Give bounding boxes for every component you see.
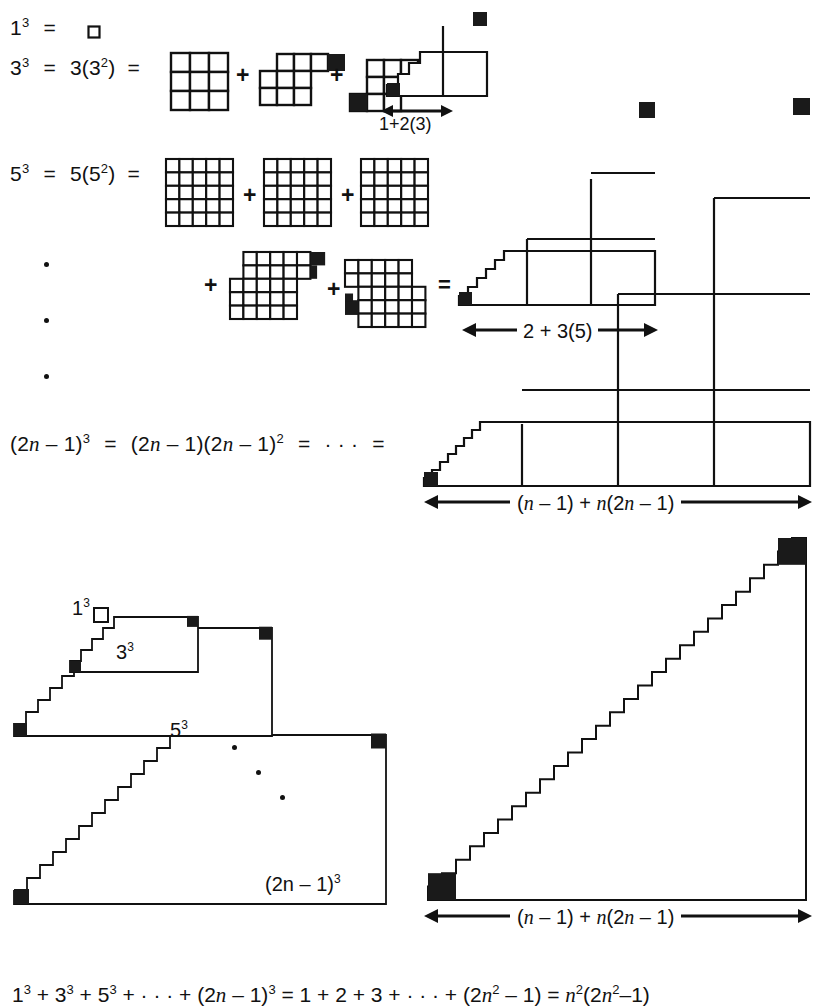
be-t4b: – 1) — [226, 983, 268, 1006]
equation-row-3: 53 = 5(52) = — [10, 162, 146, 186]
be-s1n: n — [482, 983, 493, 1007]
be-t4e: 3 — [268, 982, 275, 997]
be-r2e: 2 — [612, 982, 619, 997]
be-r1n: n — [565, 983, 576, 1007]
row4-equals-1: = — [104, 432, 116, 455]
vertical-ellipsis — [40, 262, 54, 392]
w4-n: n — [524, 492, 534, 514]
be-eq2: = — [541, 983, 565, 1006]
row4-lhs-exponent: 3 — [83, 431, 90, 446]
row3-mid: 5(5 — [70, 162, 101, 185]
row2-lhs-exponent: 3 — [22, 55, 29, 70]
row4-mid-minus: – 1)(2 — [161, 432, 223, 455]
nested-label-N-exp: 3 — [334, 872, 341, 886]
row3-plus-3: + — [204, 272, 217, 299]
w4-n2: n — [596, 492, 606, 514]
w4-a: ( — [517, 492, 524, 514]
nested-label-1-base: 1 — [72, 597, 83, 619]
be-t1e: 3 — [24, 982, 31, 997]
row2-mid: 3(3 — [70, 56, 101, 79]
bottom-equation: 13 + 33 + 53 + · · · + (2n – 1)3 = 1 + 2… — [12, 983, 650, 1008]
be-t2e: 3 — [67, 982, 74, 997]
nested-label-N-base: (2n – 1) — [265, 873, 334, 895]
wt-b: – 1) + — [534, 906, 597, 928]
equation-row-1: 13 = — [10, 16, 64, 40]
nested-label-5-exp: 3 — [181, 718, 188, 732]
row4-mid-open: (2 — [131, 432, 150, 455]
nested-label-3-exp: 3 — [127, 640, 134, 654]
be-eq1: = — [276, 983, 300, 1006]
staircase-2n-1-cubed — [420, 96, 816, 492]
row4-mid-n: n — [150, 432, 161, 456]
nested-label-3-base: 3 — [116, 641, 127, 663]
width-label-triangle: (n – 1) + n(2n – 1) — [510, 906, 681, 929]
row3-lhs: 5 — [10, 162, 22, 185]
row3-lhs-exponent: 3 — [22, 161, 29, 176]
row4-ellipsis: · · · — [324, 432, 358, 455]
row3-plus-4: + — [327, 276, 340, 303]
nested-label-1-exp: 3 — [83, 596, 90, 610]
diagonal-ellipsis — [232, 745, 312, 815]
grid-5x5-plain-2 — [263, 158, 335, 230]
row2-equals-1: = — [43, 56, 55, 79]
be-r2b: –1) — [620, 983, 650, 1006]
row2-plus-1: + — [236, 62, 249, 89]
unit-square-glyph — [86, 24, 102, 40]
wt-n: n — [524, 906, 534, 928]
row4-equals-3: = — [372, 432, 384, 455]
be-t3e: 3 — [109, 982, 116, 997]
be-t1: 1 — [12, 983, 24, 1006]
staircase-3-cubed — [383, 8, 493, 103]
row4-lhs-minus: – 1) — [40, 432, 83, 455]
row4-lhs-open: (2 — [10, 432, 29, 455]
row3-mid-close: ) — [108, 162, 115, 185]
wt-n3: n — [624, 906, 634, 928]
wt-c: (2 — [606, 906, 624, 928]
be-s1: 1 + 2 + 3 + · · · + (2 — [300, 983, 482, 1006]
row1-lhs: 1 — [10, 16, 22, 39]
row4-equals-2: = — [298, 432, 310, 455]
equation-row-2: 33 = 3(32) = — [10, 56, 146, 80]
be-t4n: n — [216, 983, 227, 1007]
row4-lhs-n: n — [29, 432, 40, 456]
row4-mid-minus2: – 1) — [233, 432, 276, 455]
grid-5x5-plain-1 — [165, 158, 237, 230]
width-label-row4: (n – 1) + n(2n – 1) — [510, 492, 681, 515]
row3-equals-2: = — [128, 162, 140, 185]
wt-a: ( — [517, 906, 524, 928]
grid-3x3-shift-a — [258, 52, 336, 114]
wt-d: – 1) — [634, 906, 674, 928]
be-t2: 3 — [55, 983, 67, 1006]
row4-mid-n2: n — [223, 432, 234, 456]
row1-lhs-exponent: 3 — [22, 15, 29, 30]
nested-label-2n-1-cubed: (2n – 1)3 — [265, 873, 341, 896]
be-r1e: 2 — [576, 982, 583, 997]
row3-plus-2: + — [341, 182, 354, 209]
row4-mid-exponent: 2 — [276, 431, 283, 446]
row2-lhs: 3 — [10, 56, 22, 79]
be-p3: + · · · + — [117, 983, 198, 1006]
be-s1b: – 1) — [499, 983, 541, 1006]
be-t3: 5 — [98, 983, 110, 1006]
be-p2: + — [74, 983, 98, 1006]
nested-label-3-cubed: 33 — [116, 641, 134, 664]
triangle-staircase-figure — [424, 536, 808, 908]
w4-c: (2 — [606, 492, 624, 514]
grid-5x5-shift-a — [228, 250, 324, 326]
row3-plus-1: + — [243, 182, 256, 209]
proof-figure-canvas: 13 = 33 = 3(32) = + + = 1+2(3) — [0, 0, 816, 1008]
nested-label-1-cubed: 13 — [72, 597, 90, 620]
nested-label-5-base: 5 — [170, 719, 181, 741]
w4-b: – 1) + — [534, 492, 597, 514]
row3-equals-1: = — [43, 162, 55, 185]
be-r2n: n — [602, 983, 613, 1007]
be-t4: (2 — [197, 983, 216, 1006]
be-r1open: (2 — [583, 983, 602, 1006]
equation-row-4: (2n – 1)3 = (2n – 1)(2n – 1)2 = · · · = — [10, 432, 393, 457]
nested-label-5-cubed: 53 — [170, 719, 188, 742]
be-p1: + — [31, 983, 55, 1006]
row2-equals-2: = — [128, 56, 140, 79]
row2-plus-2: + — [330, 62, 343, 89]
w4-d: – 1) — [634, 492, 674, 514]
grid-3x3-plain — [170, 52, 230, 112]
